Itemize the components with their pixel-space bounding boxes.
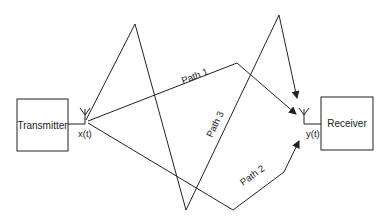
transmitter-antenna-icon <box>68 108 90 124</box>
path-2-line <box>88 123 299 210</box>
transmitter-label: Transmitter <box>17 120 68 131</box>
path-2-label: Path 2 <box>238 163 267 188</box>
transmitter-block: Transmitter <box>17 99 68 151</box>
receiver-block: Receiver <box>321 97 373 150</box>
path-1-label: Path 1 <box>180 66 210 86</box>
multipath-diagram: Transmitter x(t) Receiver y(t) Path 1 Pa… <box>0 0 388 223</box>
receiver-label: Receiver <box>327 118 367 129</box>
receiver-antenna-icon <box>299 108 321 124</box>
receiver-signal-label: y(t) <box>306 128 320 139</box>
path-3-line <box>86 15 297 210</box>
transmitter-signal-label: x(t) <box>78 128 92 139</box>
